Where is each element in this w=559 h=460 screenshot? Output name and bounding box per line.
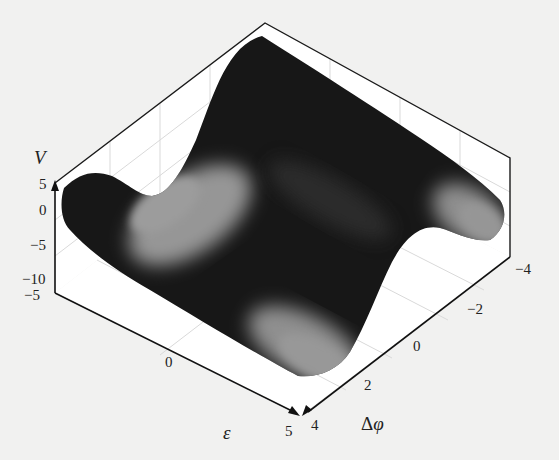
y-axis-label: Δφ bbox=[361, 414, 384, 433]
z-tick-5: 5 bbox=[39, 177, 47, 192]
y-tick-4: 4 bbox=[311, 418, 319, 433]
y-tick-0: 0 bbox=[413, 339, 421, 354]
y-tick-2: 2 bbox=[364, 378, 372, 393]
z-tick-minus5: −5 bbox=[30, 238, 46, 253]
y-axis-label-phi: φ bbox=[373, 413, 384, 434]
x-tick-0: 0 bbox=[165, 355, 173, 370]
x-tick-minus5: −5 bbox=[24, 288, 40, 303]
x-tick-5: 5 bbox=[285, 424, 293, 439]
z-tick-minus10: −10 bbox=[22, 272, 45, 287]
y-axis-label-delta: Δ bbox=[361, 413, 373, 434]
surface-plot bbox=[0, 0, 559, 460]
z-axis-label: V bbox=[34, 148, 46, 167]
y-tick-minus4: −4 bbox=[515, 262, 531, 277]
z-tick-0: 0 bbox=[39, 203, 47, 218]
x-axis-label: ε bbox=[223, 423, 231, 442]
y-tick-minus2: −2 bbox=[467, 302, 483, 317]
